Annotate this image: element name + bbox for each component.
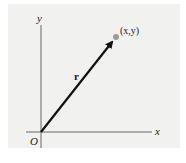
point-marker <box>113 34 119 40</box>
origin-label: O <box>30 135 38 147</box>
y-axis-label: y <box>36 12 42 24</box>
vector-label: r <box>74 70 79 82</box>
vector-arrow <box>41 42 112 132</box>
x-axis-label: x <box>154 125 160 137</box>
point-label: (x,y) <box>120 25 139 37</box>
position-vector-diagram: y x O r (x,y) <box>0 0 186 163</box>
